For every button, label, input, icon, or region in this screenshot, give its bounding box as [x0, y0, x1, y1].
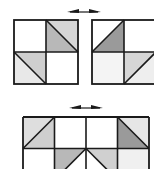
top-swap-arrow-icon	[67, 9, 101, 13]
pattern-diagram	[0, 0, 154, 169]
top-left-square	[14, 20, 78, 84]
bottom-swap-arrow-icon	[69, 105, 103, 109]
bottom-strip	[23, 117, 149, 169]
top-right-square	[92, 20, 154, 84]
